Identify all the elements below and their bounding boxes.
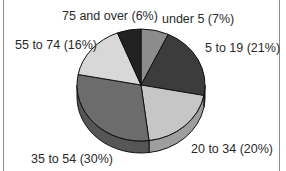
- label-75-and-over: 75 and over (6%): [62, 9, 158, 23]
- label-under-5: under 5 (7%): [162, 12, 234, 26]
- label-55-to-74: 55 to 74 (16%): [15, 38, 97, 52]
- label-20-to-34: 20 to 34 (20%): [191, 142, 273, 156]
- label-5-to-19: 5 to 19 (21%): [205, 41, 280, 55]
- label-35-to-54: 35 to 54 (30%): [31, 152, 113, 166]
